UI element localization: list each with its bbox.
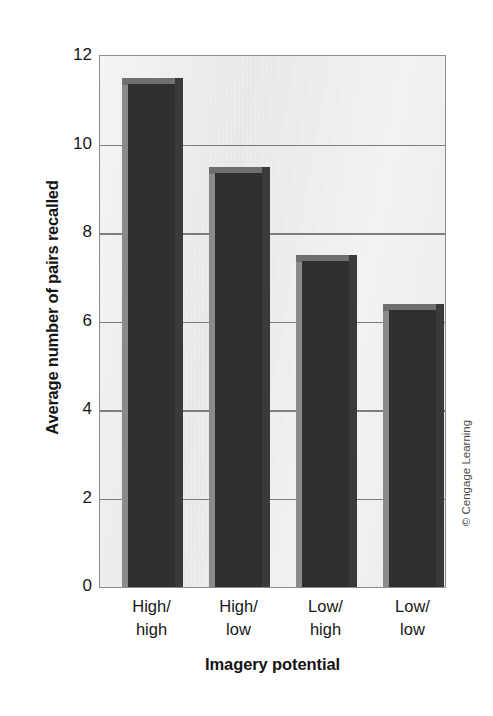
- bar-right-face: [175, 78, 183, 587]
- x-axis-tick-labels: High/ high High/ low Low/ high Low/ low: [99, 595, 446, 653]
- copyright-credit: © Cengage Learning: [460, 388, 472, 558]
- bar-high-low[interactable]: [209, 167, 270, 587]
- bar-chart-figure: Average number of pairs recalled 12 10 8…: [0, 0, 493, 716]
- bar-front-face: [302, 261, 349, 587]
- y-tick-label: 4: [46, 400, 92, 417]
- y-tick-label: 10: [46, 135, 92, 152]
- bar-front-face: [389, 310, 436, 587]
- y-tick-label: 12: [46, 46, 92, 63]
- bar-front-face: [215, 173, 262, 587]
- y-tick-label: 8: [46, 223, 92, 240]
- bar-low-high[interactable]: [296, 255, 357, 587]
- bar-right-face: [349, 255, 357, 587]
- bar-right-face: [436, 304, 444, 587]
- bar-front-face: [128, 84, 175, 587]
- x-tick-label-low-low: Low/ low: [360, 595, 465, 641]
- y-tick-label: 6: [46, 312, 92, 329]
- y-tick-label: 2: [46, 489, 92, 506]
- x-axis-title: Imagery potential: [99, 655, 446, 674]
- bar-high-high[interactable]: [122, 78, 183, 587]
- y-axis-tick-labels: 12 10 8 6 4 2 0: [44, 0, 92, 716]
- y-tick-label: 0: [46, 577, 92, 594]
- plot-area: [99, 55, 446, 588]
- x-tick-line-2: low: [360, 618, 465, 641]
- x-tick-line-1: Low/: [360, 595, 465, 618]
- bar-right-face: [262, 167, 270, 587]
- bar-low-low[interactable]: [383, 304, 444, 587]
